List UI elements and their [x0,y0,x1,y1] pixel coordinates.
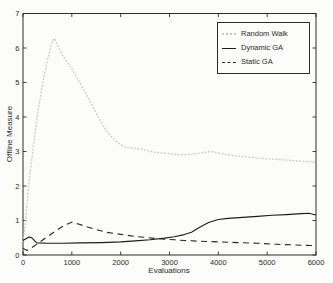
figure: 010002000300040005000600001234567 Offlin… [0,0,333,283]
series-dynamic-ga [23,213,316,243]
legend-label-random-walk: Random Walk [241,30,288,38]
legend-label-static-ga: Static GA [241,58,273,66]
x-tick-label: 4000 [210,258,227,267]
legend-item-static-ga: Static GA [222,58,307,66]
y-tick-label: 6 [15,44,19,53]
y-tick-label: 3 [15,147,19,156]
y-tick-label: 0 [15,251,19,260]
x-tick-label: 2000 [112,258,129,267]
y-tick-label: 7 [15,9,19,18]
dashed-line-sample [222,62,236,63]
x-axis-label: Evaluations [148,266,189,275]
series-static-ga [23,222,316,250]
x-tick-label: 0 [21,258,25,267]
legend-item-random-walk: Random Walk [222,30,307,38]
y-tick-label: 2 [15,182,19,191]
solid-line-sample [222,48,236,49]
y-axis-label: Offline Measure [5,106,14,162]
legend-item-dynamic-ga: Dynamic GA [222,44,307,52]
x-tick-label: 5000 [259,258,276,267]
y-tick-label: 5 [15,78,19,87]
y-tick-label: 1 [15,216,19,225]
legend-label-dynamic-ga: Dynamic GA [241,44,283,52]
x-tick-label: 1000 [63,258,80,267]
y-tick-label: 4 [15,113,19,122]
x-tick-label: 6000 [308,258,325,267]
legend: Random Walk Dynamic GA Static GA [217,22,310,74]
dotted-line-sample [222,33,236,35]
